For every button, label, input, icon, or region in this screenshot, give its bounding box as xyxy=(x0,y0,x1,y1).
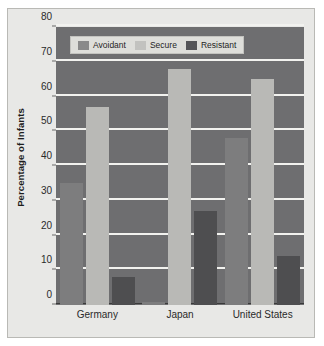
y-tick-label: 10 xyxy=(41,254,52,265)
x-tick-label: United States xyxy=(233,309,293,320)
gridline xyxy=(56,24,304,26)
y-tick-label: 20 xyxy=(41,219,52,230)
bar-group xyxy=(221,27,304,305)
bar-resistant-japan xyxy=(194,211,217,305)
y-tick-label: 80 xyxy=(41,11,52,22)
bar-group xyxy=(56,27,139,305)
y-tick-label: 70 xyxy=(41,45,52,56)
y-tick-label: 30 xyxy=(41,184,52,195)
legend-label-secure: Secure xyxy=(150,40,177,50)
bar-resistant-united-states xyxy=(277,256,300,305)
bar-avoidant-germany xyxy=(60,183,83,305)
legend-item-resistant: Resistant xyxy=(186,40,236,50)
legend-label-avoidant: Avoidant xyxy=(93,40,126,50)
bar-resistant-germany xyxy=(112,277,135,305)
legend-swatch-resistant xyxy=(186,41,197,50)
y-tick-label: 40 xyxy=(41,150,52,161)
bar-avoidant-japan xyxy=(142,302,165,305)
x-axis: GermanyJapanUnited States xyxy=(56,307,304,329)
legend-swatch-avoidant xyxy=(78,41,89,50)
chart-figure: Percentage of Infants 01020304050607080 … xyxy=(7,8,315,338)
bar-secure-germany xyxy=(86,107,109,305)
y-tick-label: 0 xyxy=(46,289,52,300)
bar-group xyxy=(139,27,222,305)
legend-swatch-secure xyxy=(135,41,146,50)
y-tick-label: 60 xyxy=(41,80,52,91)
bar-secure-united-states xyxy=(251,79,274,305)
bar-secure-japan xyxy=(168,69,191,305)
y-axis-title: Percentage of Infants xyxy=(8,9,32,305)
bar-avoidant-united-states xyxy=(225,138,248,305)
chart-legend: AvoidantSecureResistant xyxy=(70,36,244,54)
x-tick-label: Japan xyxy=(166,309,193,320)
plot-area: 01020304050607080 AvoidantSecureResistan… xyxy=(56,27,304,305)
y-tick-label: 50 xyxy=(41,115,52,126)
legend-label-resistant: Resistant xyxy=(201,40,236,50)
legend-item-avoidant: Avoidant xyxy=(78,40,126,50)
x-tick-label: Germany xyxy=(77,309,118,320)
bar-series-container xyxy=(56,27,304,305)
y-axis-title-text: Percentage of Infants xyxy=(15,108,26,207)
legend-item-secure: Secure xyxy=(135,40,177,50)
